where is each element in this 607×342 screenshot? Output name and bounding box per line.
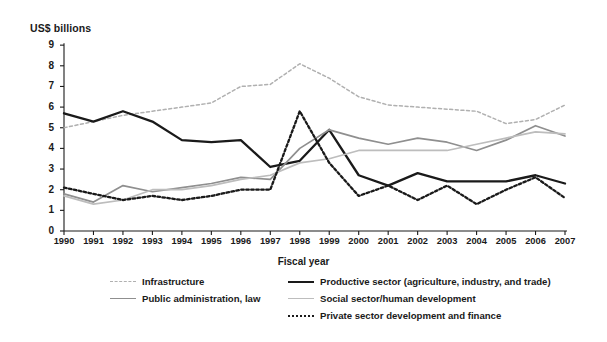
series-line-1 — [64, 111, 565, 185]
y-axis-tick-label: 3 — [38, 163, 54, 174]
y-axis-tick-label: 0 — [38, 225, 54, 236]
chart-legend: Infrastructure Productive sector (agricu… — [0, 276, 607, 327]
line-swatch-icon — [110, 295, 136, 303]
legend-row-2: Public administration, law Social sector… — [0, 293, 607, 310]
legend-item-private-sector: Private sector development and finance — [288, 310, 501, 321]
legend-item-public-administration: Public administration, law — [110, 293, 260, 304]
line-swatch-icon — [288, 278, 314, 286]
legend-label: Public administration, law — [142, 293, 260, 304]
y-axis-tick-label: 5 — [38, 122, 54, 133]
legend-row-3: Private sector development and finance — [0, 310, 607, 327]
y-axis-tick-label: 7 — [38, 80, 54, 91]
y-axis-tick-label: 4 — [38, 142, 54, 153]
y-axis-tick-label: 6 — [38, 101, 54, 112]
legend-label: Social sector/human development — [320, 293, 476, 304]
line-swatch-icon — [110, 278, 136, 286]
line-swatch-icon — [288, 312, 314, 320]
legend-row-1: Infrastructure Productive sector (agricu… — [0, 276, 607, 293]
y-axis-tick-label: 9 — [38, 39, 54, 50]
legend-item-social-sector: Social sector/human development — [288, 293, 476, 304]
chart-container: US$ billions 0123456789 1990199119921993… — [0, 0, 607, 342]
x-axis-tick-label: 2007 — [548, 236, 582, 246]
legend-item-productive-sector: Productive sector (agriculture, industry… — [288, 276, 551, 287]
y-axis-tick-label: 2 — [38, 184, 54, 195]
series-line-0 — [64, 64, 565, 128]
line-swatch-icon — [288, 295, 314, 303]
series-line-3 — [64, 132, 565, 204]
legend-label: Productive sector (agriculture, industry… — [320, 276, 551, 287]
legend-label: Private sector development and finance — [320, 310, 501, 321]
legend-item-infrastructure: Infrastructure — [110, 276, 204, 287]
x-axis-title: Fiscal year — [0, 256, 607, 267]
series-line-4 — [64, 111, 565, 204]
y-axis-tick-label: 8 — [38, 60, 54, 71]
legend-label: Infrastructure — [142, 276, 204, 287]
y-axis-tick-label: 1 — [38, 204, 54, 215]
